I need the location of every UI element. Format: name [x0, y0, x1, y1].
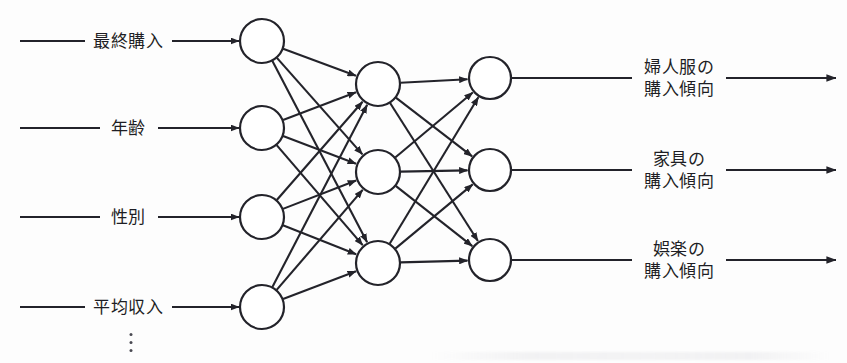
- edge-input1-hidden1: [283, 49, 356, 76]
- output-node-2: [469, 149, 511, 191]
- edge-hidden1-output1: [400, 79, 467, 83]
- edge-input4-hidden1: [272, 105, 367, 287]
- input-to-hidden-edges: [272, 49, 367, 299]
- edge-hidden3-output3: [400, 261, 467, 263]
- output-layer-nodes: [469, 57, 511, 281]
- input-node-3: [240, 195, 284, 239]
- output-node-1: [469, 57, 511, 99]
- input-arrows: [158, 41, 239, 307]
- output-label-3-line2: 購入傾向: [644, 260, 714, 282]
- output-label-1-line1: 婦人服の: [644, 56, 714, 78]
- hidden-layer-nodes: [356, 62, 400, 285]
- hidden-to-output-edges: [390, 79, 479, 262]
- input-label-1: 最終購入: [93, 31, 163, 52]
- input-label-4: 平均収入: [93, 297, 163, 318]
- input-node-4: [240, 285, 284, 329]
- output-label-2-line2: 購入傾向: [644, 170, 714, 192]
- output-arrows: [726, 78, 836, 260]
- input-layer-nodes: [240, 19, 284, 329]
- input-leader-lines: [20, 41, 100, 307]
- ellipsis-dot-1: [130, 333, 133, 336]
- edge-input4-hidden3: [283, 271, 356, 299]
- output-label-1: 婦人服の購入傾向: [644, 56, 714, 100]
- input-node-1: [240, 19, 284, 63]
- ellipsis-dot-2: [130, 341, 133, 344]
- neural-network-diagram: 最終購入年齢性別平均収入 婦人服の購入傾向家具の購入傾向娯楽の購入傾向: [0, 0, 847, 363]
- hidden-node-1: [356, 62, 400, 106]
- input-label-2: 年齢: [111, 118, 146, 139]
- hidden-node-3: [356, 241, 400, 285]
- ellipsis-dot-3: [130, 349, 133, 352]
- output-node-3: [469, 239, 511, 281]
- hidden-node-2: [356, 150, 400, 194]
- output-leader-lines: [511, 78, 632, 260]
- output-label-2-line1: 家具の: [644, 148, 714, 170]
- edge-input2-hidden1: [283, 92, 356, 120]
- output-label-3: 娯楽の購入傾向: [644, 238, 714, 282]
- scan-artifact: [430, 352, 830, 360]
- output-label-2: 家具の購入傾向: [644, 148, 714, 192]
- input-node-2: [240, 106, 284, 150]
- input-label-3: 性別: [111, 207, 146, 228]
- output-label-1-line2: 購入傾向: [644, 78, 714, 100]
- input-ellipsis-icon: [130, 328, 133, 352]
- output-label-3-line1: 娯楽の: [644, 238, 714, 260]
- edge-input4-hidden2: [277, 190, 363, 290]
